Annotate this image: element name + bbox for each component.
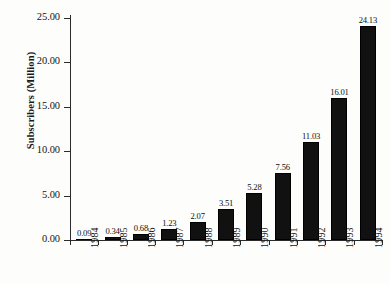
bar-chart: Subscribers (Million) 0.005.0010.0015.00… [0,0,390,284]
bar-value-label: 11.03 [291,131,331,141]
y-tick-label: 0.00 [0,233,60,244]
x-category-label: 1987 [174,227,185,248]
x-category-label: 1989 [231,227,242,248]
bar-value-label: 2.07 [178,211,218,221]
y-tick-label: 10.00 [0,144,60,155]
x-category-label: 1994 [373,227,384,248]
bar-value-label: 3.51 [206,198,246,208]
bar-value-label: 5.28 [234,182,274,192]
y-tick-label: 25.00 [0,11,60,22]
plot-area: 0.090.340.681.232.073.515.287.5611.0316.… [70,18,382,240]
bar [360,26,376,240]
bar-value-label: 7.56 [263,162,303,172]
x-category-label: 1990 [259,227,270,248]
bar-value-label: 24.13 [348,15,388,25]
x-category-label: 1992 [316,227,327,248]
bar [303,142,319,240]
y-tick-label: 15.00 [0,100,60,111]
x-category-label: 1984 [89,227,100,248]
x-category-label: 1988 [203,227,214,248]
y-tick-label: 5.00 [0,189,60,200]
bar-value-label: 16.01 [319,87,359,97]
x-axis-line [70,240,383,241]
x-category-label: 1986 [146,227,157,248]
x-tick-mark [70,240,71,245]
x-category-label: 1985 [118,227,129,248]
x-category-label: 1993 [344,227,355,248]
y-tick-label: 20.00 [0,55,60,66]
x-category-label: 1991 [288,227,299,248]
bar [331,98,347,240]
